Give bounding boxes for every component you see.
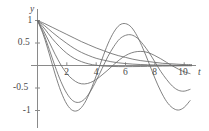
curve-overdamped-slowest	[38, 21, 192, 65]
y-tick-label: -1	[23, 106, 31, 116]
y-tick-label: 1	[28, 16, 33, 26]
y-tick-label: 0.5	[18, 38, 30, 48]
y-tick-label: -0.5	[13, 83, 28, 93]
damped-oscillation-chart: 246810-1-0.50.51 y t	[0, 0, 209, 131]
x-tick-label: 4	[94, 68, 99, 78]
curve-underdamped-light	[38, 21, 191, 84]
x-tick-label: 6	[123, 68, 128, 78]
curve-overdamped-mid	[38, 21, 192, 66]
curve-critically-damped	[38, 21, 192, 67]
x-tick-label: 2	[64, 68, 69, 78]
x-tick-label: 10	[178, 68, 188, 78]
x-axis-label: t	[198, 68, 201, 78]
x-tick-label: 8	[152, 68, 157, 78]
y-axis-label: y	[30, 5, 34, 15]
